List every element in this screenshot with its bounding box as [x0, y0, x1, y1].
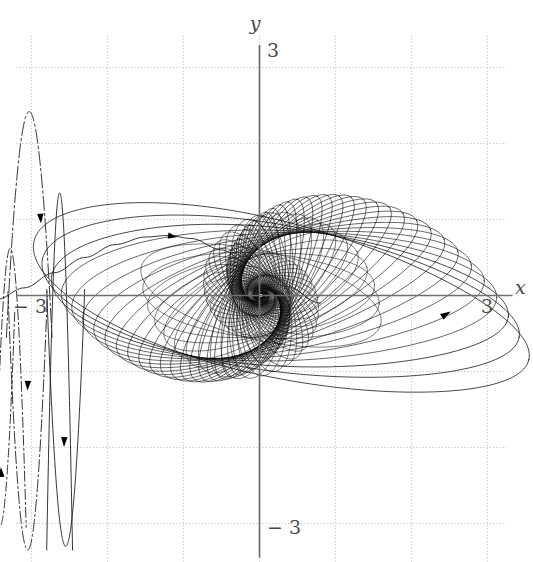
- y-tick-label-bottom: − 3: [267, 516, 301, 538]
- y-tick-label-top: 3: [267, 39, 279, 61]
- x-tick-label-right: 3: [481, 295, 493, 317]
- x-axis-label: x: [515, 276, 526, 298]
- phase-plot-figure: y 3 − 3 x 3 − 3: [0, 0, 533, 562]
- x-tick-label-left: − 3: [13, 295, 47, 317]
- y-axis-label: y: [249, 12, 261, 34]
- labels-layer: y 3 − 3 x 3 − 3: [0, 0, 533, 562]
